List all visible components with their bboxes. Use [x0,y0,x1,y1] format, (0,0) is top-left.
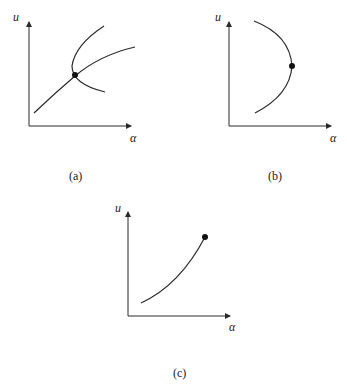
caption-b: (b) [268,169,282,183]
caption-a: (a) [69,169,82,183]
caption-c: (c) [173,366,186,380]
branch-monotone-a [34,47,135,113]
panel-b: u α (b) [215,10,337,183]
panel-a: u α (a) [13,10,137,183]
panel-c: u α (c) [115,201,236,380]
endpoint-c [202,234,208,240]
ylabel-a: u [13,10,19,24]
ylabel-b: u [215,10,221,24]
ylabel-c: u [115,201,121,215]
xlabel-a: α [130,131,137,145]
fold-curve-b [254,21,292,113]
xlabel-b: α [330,131,337,145]
turning-point-b [289,63,295,69]
diagram-canvas: u α (a) u α (b) u α (c) [0,0,347,386]
bifurcation-point-a [72,72,78,78]
curve-c [141,237,205,303]
xlabel-c: α [229,320,236,334]
